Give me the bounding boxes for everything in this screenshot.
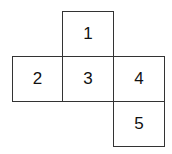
face-3: 3 [62,56,114,102]
face-5: 5 [113,101,165,147]
face-label: 5 [134,114,143,134]
face-label: 1 [83,24,92,44]
face-2: 2 [12,56,63,102]
face-1: 1 [62,11,114,57]
face-label: 2 [33,69,42,89]
face-label: 4 [134,69,143,89]
face-label: 3 [83,69,92,89]
face-4: 4 [113,56,165,102]
